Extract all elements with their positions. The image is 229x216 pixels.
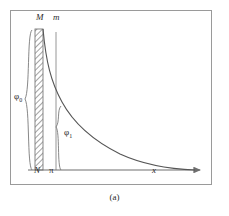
label-phi1: φ1 <box>64 128 72 139</box>
hatched-band <box>35 29 43 170</box>
page-header-fragment <box>0 0 229 7</box>
plot-area <box>10 10 212 185</box>
label-m: m <box>53 13 60 22</box>
phi1-brace <box>56 106 61 170</box>
phi0-subscript: 0 <box>19 97 22 103</box>
label-N: N <box>34 166 40 175</box>
label-pi: π <box>49 166 54 175</box>
label-phi0: φ0 <box>14 92 22 103</box>
figure-caption: (a) <box>0 192 229 202</box>
figure-container: M m N π x φ0 φ1 (a) <box>0 0 229 216</box>
decay-curve <box>43 29 195 170</box>
label-x-axis: x <box>152 166 156 175</box>
phi0-brace <box>25 30 32 170</box>
label-M: M <box>36 13 44 22</box>
phi1-subscript: 1 <box>69 133 72 139</box>
